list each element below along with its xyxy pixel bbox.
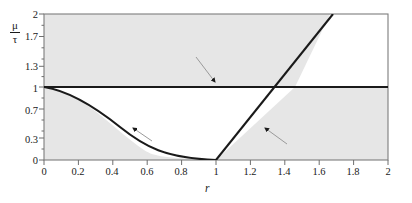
figure-phase-diagram: μ τ 2 1.7 1.3 1 0.7 0.3 0 0 0.2 0.4 0.6 … (0, 0, 412, 203)
y-axis-ticks (39, 14, 44, 160)
shaded-impossible-upper-left (44, 14, 330, 87)
x-axis-ticks (44, 160, 388, 165)
plot-canvas (0, 0, 412, 203)
